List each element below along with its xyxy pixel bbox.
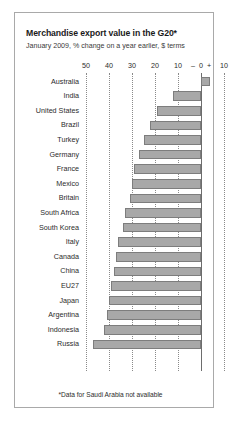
page-title: Merchandise export value in the G20* (26, 28, 206, 39)
bar-category-label: Russia (57, 339, 79, 348)
bar-category-label: Turkey (57, 135, 79, 144)
x-axis-tick-3: 20 (151, 61, 159, 70)
x-axis-tick-1: 40 (105, 61, 113, 70)
x-axis-tick-0: 50 (82, 61, 90, 70)
bar-category-label: China (60, 266, 79, 275)
bar-category-label: Britain (59, 193, 79, 202)
bar-category-label: United States (36, 106, 79, 115)
bar-row: Britain (15, 191, 213, 206)
chart-subtitle: January 2009, % change on a year earlier… (26, 41, 206, 51)
bar-category-label: South Korea (39, 223, 79, 232)
bar-category-label: Canada (54, 252, 79, 261)
bar (123, 223, 201, 233)
bar-category-label: Japan (59, 296, 79, 305)
bar (114, 267, 201, 277)
bar-row: Turkey (15, 133, 213, 148)
bar-category-label: Argentina (48, 310, 79, 319)
bar-category-label: Mexico (56, 179, 79, 188)
bar (104, 325, 201, 335)
bar-row: China (15, 264, 213, 279)
x-axis-tick-6: 10 (220, 61, 228, 70)
bar-row: Germany (15, 148, 213, 163)
bar (201, 77, 210, 87)
bar-row: South Korea (15, 221, 213, 236)
bar (173, 91, 201, 101)
bar (109, 296, 201, 306)
bar-row: Brazil (15, 118, 213, 133)
bar-row: Japan (15, 294, 213, 309)
x-axis-tick-5: 0 (199, 61, 203, 70)
bar (150, 121, 201, 131)
bar-category-label: Germany (49, 150, 79, 159)
bar (125, 208, 201, 218)
bar-category-label: EU27 (61, 281, 79, 290)
bar (139, 150, 201, 160)
bar-category-label: India (63, 91, 79, 100)
bar (144, 135, 202, 145)
x-axis-tick-2: 30 (128, 61, 136, 70)
bar (134, 164, 201, 174)
bar (111, 281, 201, 291)
bar (116, 252, 201, 262)
chart-footnote: *Data for Saudi Arabia not available (15, 391, 206, 398)
chart-card: Merchandise export value in the G20* Jan… (14, 12, 214, 408)
bar-category-label: Australia (51, 77, 79, 86)
x-axis-tick-labels: 5040302010010–+ (15, 61, 213, 73)
bar-row: EU27 (15, 279, 213, 294)
gridline-6 (224, 73, 225, 371)
bar (157, 106, 201, 116)
bar (132, 179, 201, 189)
bar-category-label: Indonesia (48, 325, 79, 334)
bar-category-label: France (57, 164, 79, 173)
bar-row: India (15, 89, 213, 104)
chart-header: Merchandise export value in the G20* Jan… (26, 28, 206, 51)
bar-category-label: South Africa (40, 208, 79, 217)
bar (107, 310, 201, 320)
bar-category-label: Italy (66, 237, 79, 246)
bar-row: United States (15, 104, 213, 119)
bar-row: Indonesia (15, 323, 213, 338)
x-axis-minus-sign: – (191, 61, 195, 70)
bar-row: Russia (15, 337, 213, 352)
bar-row: Canada (15, 250, 213, 265)
bar-row: South Africa (15, 206, 213, 221)
bar (93, 340, 201, 350)
bar-row: Mexico (15, 177, 213, 192)
bar-category-label: Brazil (61, 120, 79, 129)
x-axis-plus-sign: + (207, 61, 211, 70)
bar (130, 194, 201, 204)
bar-row: Argentina (15, 308, 213, 323)
bar-series: AustraliaIndiaUnited StatesBrazilTurkeyG… (15, 73, 213, 371)
bar-row: Italy (15, 235, 213, 250)
bar (118, 237, 201, 247)
x-axis-tick-4: 10 (174, 61, 182, 70)
bar-row: France (15, 162, 213, 177)
plot-area: 5040302010010–+ AustraliaIndiaUnited Sta… (15, 61, 213, 381)
bar-row: Australia (15, 75, 213, 90)
